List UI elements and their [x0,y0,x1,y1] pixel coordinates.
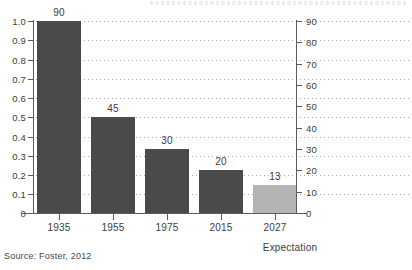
y-axis-right-tick-label: 10 [306,188,317,198]
y-axis-left-tick-label: 0.4 [12,133,26,143]
bar-value-2015: 20 [199,157,243,167]
tick-left [28,40,33,41]
tick-right [297,128,302,129]
expectation-annotation: Expectation [235,243,345,253]
right-axis-line [296,20,297,214]
y-axis-right-tick-label: 90 [306,17,317,27]
y-axis-left-tick-label: 0.8 [12,56,26,66]
tick-right [297,42,302,43]
y-axis-left-tick-label: 0 [21,209,26,219]
x-axis-label-1935: 1935 [37,223,81,233]
gridline [36,79,412,80]
y-axis-left-tick-label: 0.2 [12,171,26,181]
gridline [36,40,412,41]
y-axis-right-tick-label: 30 [306,145,317,155]
tick-left [28,98,33,99]
bar-chart: 90 45 30 20 13 1.0 0.9 0.8 0.7 0.6 0.5 0… [0,0,412,270]
x-axis-line [22,213,307,214]
y-axis-right-tick-label: 50 [306,102,317,112]
tick-right [297,106,302,107]
tick-left [28,117,33,118]
tick-left [28,60,33,61]
tick-right [297,21,302,22]
y-axis-right-tick-label: 70 [306,60,317,70]
tick-right [297,85,302,86]
x-axis-label-2015: 2015 [199,223,243,233]
gridline [36,98,412,99]
tick-left [28,194,33,195]
tick-right [297,192,302,193]
y-axis-left-tick-label: 0.7 [12,75,26,85]
y-axis-left-tick-label: 0.5 [12,113,26,123]
tick-left [28,156,33,157]
tick-right [297,64,302,65]
source-note: Source: Foster, 2012 [4,252,92,261]
tick-x [275,214,276,220]
tick-x [167,214,168,220]
y-axis-right-tick-label: 60 [306,81,317,91]
left-axis-line [33,20,34,214]
bar-value-1935: 90 [37,8,81,18]
y-axis-left-tick-label: 0.1 [12,190,26,200]
y-axis-left-tick-label: 0.9 [12,36,26,46]
tick-x [59,214,60,220]
y-axis-left-tick-label: 1.0 [12,17,26,27]
bar-1975[interactable] [145,149,189,213]
bar-value-1975: 30 [145,136,189,146]
x-axis-label-1955: 1955 [91,223,135,233]
tick-x [113,214,114,220]
bar-2015[interactable] [199,170,243,213]
gridline [36,21,412,22]
y-axis-left-tick-label: 0.3 [12,152,26,162]
tick-left [28,21,33,22]
y-axis-right-tick-label: 40 [306,124,317,134]
y-axis-right-tick-label: 80 [306,38,317,48]
gridline [36,60,412,61]
tick-left [28,175,33,176]
bar-value-1955: 45 [91,104,135,114]
tick-x [221,214,222,220]
tick-left [28,79,33,80]
bar-1955[interactable] [91,117,135,213]
x-axis-label-1975: 1975 [145,223,189,233]
bar-1935[interactable] [37,21,81,213]
y-axis-left-tick-label: 0.6 [12,94,26,104]
tick-right [297,149,302,150]
bar-2027[interactable] [253,185,297,213]
x-axis-label-2027: 2027 [253,223,297,233]
bar-value-2027: 13 [253,172,297,182]
tick-right [297,213,302,214]
tick-left [28,137,33,138]
tick-left [28,213,33,214]
tick-right [297,170,302,171]
y-axis-right-tick-label: 20 [306,166,317,176]
y-axis-right-tick-label: 0 [306,209,311,219]
